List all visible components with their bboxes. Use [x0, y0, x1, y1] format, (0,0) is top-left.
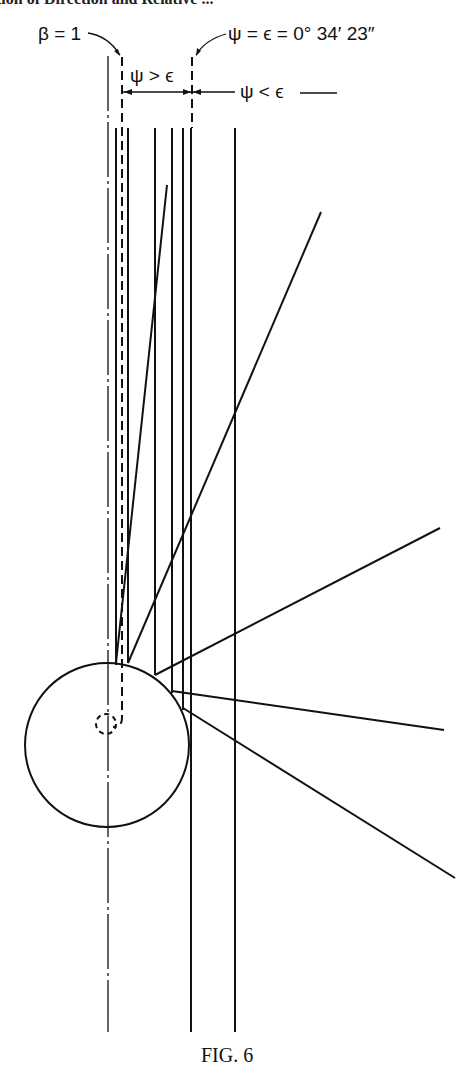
dashed-loop	[96, 714, 116, 734]
deflected-ray	[183, 708, 455, 878]
figure-caption: FIG. 6	[201, 1044, 253, 1066]
figure-6-diagram: tion of Direction and Relative ... β = 1…	[0, 0, 472, 1080]
sphere-circle	[25, 663, 189, 827]
psi-greater-label: ψ > ϵ	[130, 65, 174, 86]
running-header: tion of Direction and Relative ...	[0, 0, 213, 7]
deflected-ray	[155, 528, 440, 675]
arrowhead-left	[124, 89, 132, 95]
deflected-ray	[172, 691, 444, 730]
psi-epsilon-label: ψ = ϵ = 0° 34′ 23″	[228, 23, 375, 44]
psi-less-label: ψ < ϵ	[240, 81, 284, 102]
beta-label: β = 1	[38, 23, 81, 44]
arrowhead-right	[183, 89, 191, 95]
arrowhead-lt	[193, 89, 201, 95]
psi-epsilon-arrow	[196, 34, 226, 55]
